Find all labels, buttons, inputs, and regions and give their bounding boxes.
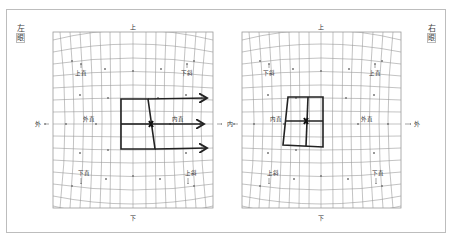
left-label-out: 外 [35,120,41,128]
right-label-down: 下 [318,214,324,222]
left-label-down: 下 [130,214,136,222]
left-label-up: 上 [130,23,136,30]
left-muscle-superior-rectus: 上直 [75,69,87,76]
right-label-out: 外 [414,120,420,128]
left-distortion-grid [53,30,213,216]
right-label-up: 上 [318,23,324,30]
right-muscle-inferior-rectus: 下直 [372,169,384,177]
right-muscle-superior-oblique: 上斜 [267,169,279,177]
left-deviation-arrows [148,98,207,149]
left-muscle-medial-rectus: 内直 [172,115,184,123]
left-muscle-inferior-oblique: 下斜 [181,69,193,77]
right-distortion-grid [242,30,401,216]
right-grid-border [242,32,401,208]
left-muscle-superior-oblique: 上斜 [185,169,197,177]
diagram-canvas: 上 下 外 内 上直 下斜 外直 内直 下直 上斜 上 下 [0,0,451,240]
right-muscle-lateral-rectus: 外直 [361,115,373,123]
left-muscle-lateral-rectus: 外直 [83,115,95,123]
right-muscle-superior-rectus: 上直 [369,69,381,76]
left-label-in: 内 [227,120,233,128]
left-muscle-inferior-rectus: 下直 [78,169,90,177]
right-muscle-medial-rectus: 内直 [270,115,282,123]
right-muscle-inferior-oblique: 下斜 [263,69,275,77]
right-deviation-box [283,97,323,147]
